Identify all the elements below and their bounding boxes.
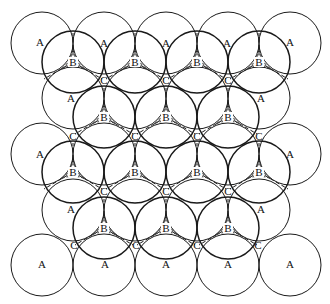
label-b: B	[69, 56, 76, 68]
label-a: A	[223, 37, 231, 49]
label-b: B	[224, 111, 231, 123]
close-packing-diagram: AAAAAAAAAAAAAAAA BBBBBBBBBBBBBB CCCCCCCC…	[0, 0, 330, 304]
label-c: C	[132, 239, 139, 251]
label-b: B	[162, 111, 169, 123]
label-b: B	[69, 166, 76, 178]
label-a: A	[224, 258, 232, 270]
label-c: C	[162, 74, 169, 86]
label-c: C	[254, 239, 261, 251]
label-b: B	[224, 222, 231, 234]
label-c: C	[70, 239, 77, 251]
label-b: B	[131, 56, 138, 68]
label-b: B	[162, 222, 169, 234]
label-c: C	[100, 185, 107, 197]
label-a: A	[67, 92, 75, 104]
label-a: A	[101, 258, 109, 270]
label-c: C	[224, 74, 231, 86]
label-a: A	[286, 36, 294, 48]
label-a: A	[286, 258, 294, 270]
label-a: A	[67, 203, 75, 215]
label-b: B	[193, 56, 200, 68]
label-a: A	[36, 36, 44, 48]
label-c: C	[224, 185, 231, 197]
label-a: A	[162, 37, 170, 49]
label-c: C	[193, 130, 200, 142]
label-a: A	[257, 203, 265, 215]
label-b: B	[255, 166, 262, 178]
label-c: C	[193, 239, 200, 251]
label-b: B	[100, 222, 107, 234]
label-a: A	[286, 148, 294, 160]
label-a: A	[38, 258, 46, 270]
label-a: A	[257, 92, 265, 104]
label-c: C	[162, 185, 169, 197]
label-a: A	[100, 37, 108, 49]
label-c: C	[255, 130, 262, 142]
label-a: A	[162, 258, 170, 270]
label-c: C	[69, 130, 76, 142]
label-b: B	[100, 111, 107, 123]
label-c: C	[131, 130, 138, 142]
label-b: B	[131, 166, 138, 178]
label-c: C	[100, 74, 107, 86]
label-b: B	[193, 166, 200, 178]
label-b: B	[255, 56, 262, 68]
label-a: A	[36, 148, 44, 160]
